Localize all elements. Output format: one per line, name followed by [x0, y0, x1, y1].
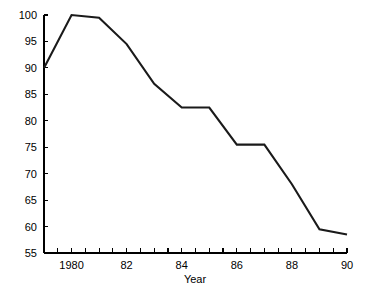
- y-tick-label: 75: [25, 141, 37, 153]
- x-tick-label: 86: [231, 259, 243, 271]
- y-tick-label: 85: [25, 88, 37, 100]
- x-axis-title: Year: [184, 273, 207, 285]
- x-tick-label: 1980: [59, 259, 83, 271]
- y-tick-label: 80: [25, 115, 37, 127]
- y-tick-label: 95: [25, 35, 37, 47]
- x-tick-label: 88: [286, 259, 298, 271]
- x-tick-label: 84: [176, 259, 188, 271]
- y-tick-label: 55: [25, 247, 37, 259]
- line-chart: 556065707580859095100 19808284868890 Yea…: [0, 0, 368, 295]
- y-tick-label: 65: [25, 194, 37, 206]
- y-tick-label: 60: [25, 221, 37, 233]
- x-tick-label: 90: [341, 259, 353, 271]
- y-tick-label: 70: [25, 168, 37, 180]
- y-tick-label: 90: [25, 62, 37, 74]
- x-tick-label: 82: [121, 259, 133, 271]
- chart-container: 556065707580859095100 19808284868890 Yea…: [0, 0, 368, 295]
- y-tick-label: 100: [19, 9, 37, 21]
